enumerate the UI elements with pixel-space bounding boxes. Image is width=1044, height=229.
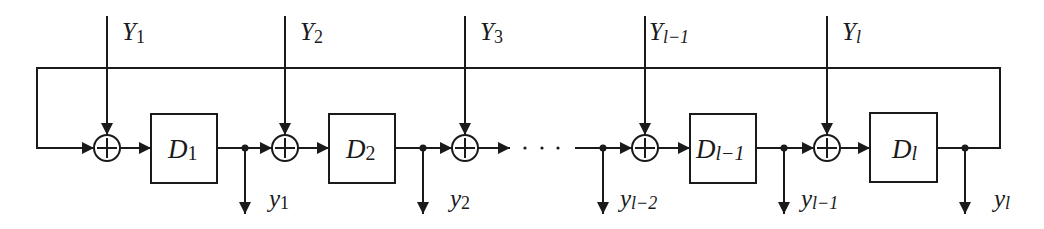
adder-l-minus-1 [632,135,658,161]
output-label-y2: y2 [447,185,470,213]
adder-1 [94,135,120,161]
delay-box-l-minus-1: Dl−1 [690,114,756,183]
adder-3 [452,135,478,161]
input-label-Y1: Y1 [122,18,145,47]
output-label-yl: yl [991,185,1010,213]
input-label-Y2: Y2 [300,18,323,47]
input-label-Yl-1: Yl−1 [649,18,689,47]
adder-2 [272,135,298,161]
output-label-y1: y1 [266,185,289,213]
adder-l [814,135,840,161]
delay-box-l: Dl [870,113,937,182]
ellipsis-dots [523,146,559,149]
output-label-yl-1: yl−1 [798,185,838,213]
delay-box-2: D2 [329,114,395,183]
output-labels: y1 y2 yl−2 yl−1 yl [266,185,1010,213]
input-label-Yl: Yl [842,18,861,47]
output-label-yl-2: yl−2 [617,185,657,213]
input-label-Y3: Y3 [480,18,503,47]
delay-box-1: D1 [151,114,217,183]
delay-ring-diagram: D1 D2 Dl−1 Dl Y1 Y2 Y3 Yl−1 Yl y1 y2 yl−… [0,0,1044,229]
input-labels: Y1 Y2 Y3 Yl−1 Yl [122,18,861,47]
